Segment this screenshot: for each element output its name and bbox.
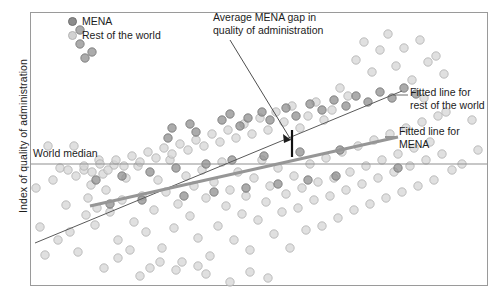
- fitted-row-annotation-line1: Fitted line for: [410, 86, 485, 99]
- data-point: [226, 278, 234, 286]
- data-point: [246, 268, 254, 276]
- data-point: [362, 162, 370, 170]
- data-point: [170, 224, 178, 232]
- data-point: [224, 126, 232, 134]
- data-point: [186, 120, 194, 128]
- data-point: [128, 152, 136, 160]
- data-point: [80, 162, 88, 170]
- data-point: [49, 176, 57, 184]
- data-point: [62, 201, 70, 209]
- data-point: [36, 223, 44, 231]
- data-point: [192, 128, 200, 136]
- data-point: [142, 228, 150, 236]
- data-point: [146, 264, 154, 272]
- data-point: [330, 96, 338, 104]
- data-point: [352, 56, 360, 64]
- data-point: [296, 124, 304, 132]
- data-point: [350, 206, 358, 214]
- data-point: [296, 148, 304, 156]
- world-median-label: World median: [33, 147, 98, 159]
- data-point: [292, 112, 300, 120]
- data-point: [230, 236, 238, 244]
- data-point: [172, 164, 180, 172]
- data-point: [176, 140, 184, 148]
- data-point: [314, 178, 322, 186]
- data-point: [54, 236, 62, 244]
- data-point: [88, 48, 96, 56]
- data-point: [232, 134, 240, 142]
- data-point: [136, 158, 144, 166]
- data-point: [164, 134, 172, 142]
- data-point: [306, 100, 314, 108]
- data-point: [258, 108, 266, 116]
- data-point: [114, 254, 122, 262]
- data-point: [394, 164, 402, 172]
- data-point: [280, 118, 288, 126]
- data-point: [72, 172, 80, 180]
- data-point: [114, 236, 122, 244]
- data-point: [290, 172, 298, 180]
- data-point: [206, 252, 214, 260]
- data-point: [64, 166, 72, 174]
- data-point: [184, 146, 192, 154]
- data-point: [278, 208, 286, 216]
- data-point: [226, 186, 234, 194]
- data-point: [202, 270, 210, 278]
- data-point: [150, 206, 158, 214]
- data-point: [136, 272, 144, 280]
- data-point: [346, 168, 354, 176]
- data-point: [342, 102, 350, 110]
- data-point: [250, 174, 258, 182]
- data-point: [332, 172, 340, 180]
- data-point: [84, 194, 92, 202]
- data-point: [174, 200, 182, 208]
- data-point: [326, 192, 334, 200]
- data-point: [81, 54, 89, 62]
- data-point: [144, 148, 152, 156]
- data-point: [246, 246, 254, 254]
- data-point: [328, 106, 336, 114]
- data-point: [126, 246, 134, 254]
- data-point: [438, 150, 446, 158]
- legend-item-rest-of-world: Rest of the world: [68, 28, 161, 42]
- data-point: [160, 144, 168, 152]
- data-point: [66, 228, 74, 236]
- data-point: [398, 188, 406, 196]
- world-median-annotation: World median: [33, 147, 98, 160]
- data-point: [414, 182, 422, 190]
- data-point: [344, 92, 352, 100]
- data-point: [304, 112, 312, 120]
- data-point: [192, 136, 200, 144]
- fitted-row-annotation-line2: rest of the world: [410, 99, 485, 112]
- data-point: [264, 126, 272, 134]
- data-point: [264, 274, 272, 282]
- data-point: [334, 214, 342, 222]
- gap-annotation-line2: quality of administration: [213, 24, 323, 37]
- data-point: [394, 150, 402, 158]
- data-point: [266, 182, 274, 190]
- data-point: [434, 112, 442, 120]
- data-point: [82, 211, 90, 219]
- data-point: [238, 210, 246, 218]
- data-point: [172, 266, 180, 274]
- fitted-mena-annotation: Fitted line for MENA: [399, 125, 460, 151]
- data-point: [360, 38, 368, 46]
- data-point: [260, 152, 268, 160]
- data-point: [180, 192, 188, 200]
- fitted-mena-annotation-line1: Fitted line for: [399, 125, 460, 138]
- chart-container: Index of quality of administration MENA …: [0, 0, 498, 301]
- data-point: [226, 110, 234, 118]
- data-point: [92, 176, 100, 184]
- data-point: [304, 176, 312, 184]
- y-axis-label: Index of quality of administration: [17, 21, 29, 251]
- data-point: [266, 116, 274, 124]
- data-point: [32, 184, 40, 192]
- legend-swatch-mena: [68, 17, 77, 26]
- data-point: [158, 244, 166, 252]
- data-point: [242, 192, 250, 200]
- data-point: [41, 251, 49, 259]
- data-point: [294, 204, 302, 212]
- data-point: [152, 154, 160, 162]
- data-point: [88, 168, 96, 176]
- data-point: [216, 138, 224, 146]
